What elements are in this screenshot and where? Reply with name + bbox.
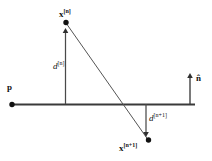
label-point-x-n: x[n]	[59, 8, 71, 19]
label-point-x-n-superscript: [n]	[64, 8, 71, 14]
label-distance-d-n1-superscript: [n+1]	[154, 112, 167, 118]
label-point-x-n1-superscript: [n+1]	[124, 142, 138, 148]
trajectory-line	[66, 23, 148, 139]
figure-canvas	[0, 0, 212, 161]
point-x-n-dot	[63, 20, 68, 25]
label-distance-d-n-superscript: [n]	[58, 60, 65, 66]
geometry-figure: x[n] x[n+1] d[n] d[n+1] p n̂	[0, 0, 212, 161]
label-distance-d-n: d[n]	[53, 60, 65, 71]
point-p-dot	[9, 102, 14, 107]
point-x-n1-dot	[146, 137, 151, 142]
label-normal-n-hat: n̂	[196, 74, 201, 83]
label-distance-d-n1: d[n+1]	[149, 112, 167, 123]
label-point-x-n1: x[n+1]	[119, 142, 137, 153]
label-point-p: p	[7, 83, 12, 92]
